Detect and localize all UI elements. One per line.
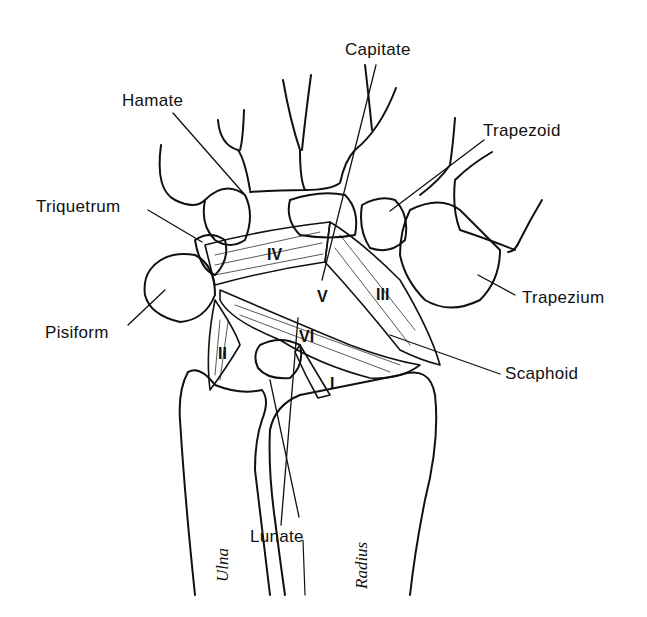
capitate-bone bbox=[289, 193, 357, 237]
pisiform-bone bbox=[145, 254, 215, 322]
leader-trapezoid bbox=[390, 140, 484, 211]
leader-capitate bbox=[322, 65, 376, 280]
label-capitate: Capitate bbox=[345, 40, 411, 60]
ligament-label-i: I bbox=[330, 375, 334, 393]
label-hamate: Hamate bbox=[122, 91, 183, 111]
ligament-label-v: V bbox=[317, 288, 328, 306]
label-scaphoid: Scaphoid bbox=[505, 364, 578, 384]
ligament-label-iv: IV bbox=[267, 246, 282, 264]
metacarpals bbox=[160, 65, 542, 252]
leader-scaphoid bbox=[390, 335, 500, 374]
label-ulna: Ulna bbox=[213, 548, 233, 582]
leader-triquetrum bbox=[148, 210, 202, 242]
ligament-label-ii: II bbox=[218, 345, 227, 363]
label-trapezoid: Trapezoid bbox=[483, 121, 561, 141]
label-pisiform: Pisiform bbox=[45, 323, 109, 343]
leader-lunate-1 bbox=[281, 318, 298, 525]
trapezoid-bone bbox=[361, 198, 406, 250]
leader-hamate bbox=[173, 113, 245, 195]
leader-lunate-2 bbox=[270, 380, 299, 517]
ligament-label-iii: III bbox=[376, 286, 389, 304]
trapezium-bone bbox=[400, 203, 500, 308]
wrist-diagram bbox=[0, 0, 647, 617]
leader-trapezium bbox=[478, 275, 515, 295]
label-trapezium: Trapezium bbox=[522, 288, 604, 308]
ligament-label-vi: VI bbox=[299, 328, 314, 346]
leader-pisiform bbox=[128, 290, 165, 325]
label-lunate: Lunate bbox=[250, 527, 304, 547]
label-radius: Radius bbox=[352, 542, 372, 589]
label-triquetrum: Triquetrum bbox=[36, 197, 121, 217]
